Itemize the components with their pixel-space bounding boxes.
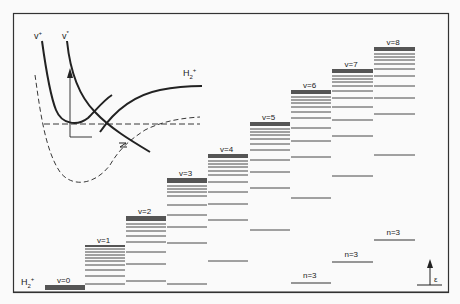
- n3-label: n=3: [387, 229, 401, 237]
- curve-dashed-bound: [35, 75, 200, 182]
- ladder-label: v=5: [262, 114, 275, 122]
- vibrational-ladders: [45, 47, 415, 290]
- n3-label: n=3: [303, 272, 317, 280]
- label-v-plus: v+: [34, 30, 42, 41]
- ladder-band-4: [208, 154, 248, 158]
- energy-axis-label: ε: [434, 276, 438, 284]
- ladder-label: v=7: [345, 61, 358, 69]
- energy-axis: [417, 259, 442, 285]
- ladder-band-3: [167, 178, 207, 183]
- potential-curves-inset: [35, 41, 202, 182]
- ladder-band-2: [126, 216, 166, 221]
- curve-h2plus: [100, 86, 202, 132]
- n3-label: n=3: [345, 251, 359, 259]
- ladder-band-6: [291, 90, 331, 94]
- ladder-band-5: [250, 122, 290, 126]
- energy-axis-arrowhead: [427, 259, 433, 268]
- label-h2plus-curve: H2+: [183, 67, 196, 80]
- label-v-star: v*: [62, 30, 69, 41]
- ladder-band-7: [332, 69, 373, 73]
- ladder-label: v=8: [387, 39, 400, 47]
- ladder-band-0: [45, 285, 85, 290]
- ladder-band-8: [374, 47, 415, 51]
- ladder-label: v=6: [303, 82, 316, 90]
- ladder-label: v=2: [138, 208, 151, 216]
- ladder-label: v=3: [179, 170, 192, 178]
- ladder-label: v=4: [220, 146, 233, 154]
- ladder-label: v=1: [97, 237, 110, 245]
- ladder-label: v=0: [57, 277, 70, 285]
- label-h2plus-ion: H2+: [21, 276, 34, 289]
- ladder-band-1: [85, 245, 125, 247]
